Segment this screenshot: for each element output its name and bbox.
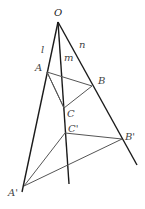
label-b-prime: B' bbox=[124, 131, 135, 142]
label-a-prime: A' bbox=[7, 187, 18, 198]
line-l bbox=[22, 22, 58, 192]
label-c-prime: C' bbox=[68, 123, 78, 134]
line-m bbox=[58, 22, 69, 184]
triangle-abc bbox=[47, 72, 92, 108]
label-l: l bbox=[41, 44, 44, 55]
label-a: A bbox=[34, 62, 42, 73]
line-n bbox=[58, 22, 137, 165]
label-c: C bbox=[67, 108, 75, 119]
triangle-a-prime-b-prime-c-prime bbox=[24, 133, 122, 186]
label-o: O bbox=[54, 7, 62, 18]
geometry-diagram: O l m n A B C C' B' A' bbox=[0, 0, 145, 209]
label-n: n bbox=[79, 39, 85, 50]
label-b: B bbox=[97, 75, 105, 86]
label-m: m bbox=[64, 52, 73, 63]
